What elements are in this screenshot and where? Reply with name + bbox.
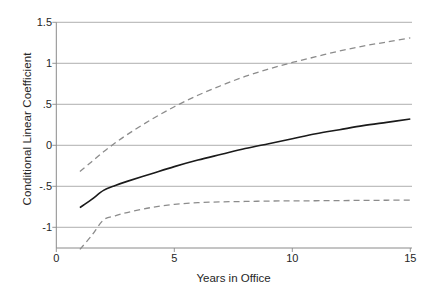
x-tick-label: 10 <box>272 252 312 264</box>
chart-figure: 1.51.50-.5-1 051015 Conditional Linear C… <box>0 0 429 293</box>
chart-series-group <box>80 38 410 250</box>
x-tick-labels: 051015 <box>0 252 429 272</box>
y-axis-title: Conditional Linear Coefficient <box>21 14 33 244</box>
x-tick-label: 0 <box>36 252 76 264</box>
x-tick-label: 5 <box>154 252 194 264</box>
series-line-1 <box>80 119 410 208</box>
series-line-2 <box>80 200 410 249</box>
chart-plot-area <box>0 0 429 293</box>
x-axis-title: Years in Office <box>56 272 411 284</box>
series-line-0 <box>80 38 410 172</box>
y-tick-marks <box>52 22 56 227</box>
x-tick-label: 15 <box>390 252 429 264</box>
y-gridlines <box>56 22 412 227</box>
